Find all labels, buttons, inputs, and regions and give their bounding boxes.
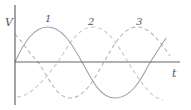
curve-3-label: 3 — [136, 16, 142, 27]
curve-2-label: 2 — [87, 16, 94, 27]
y-axis-label: V — [5, 16, 14, 29]
x-axis-label: t — [172, 67, 177, 80]
three-phase-voltage-diagram: V t 1 2 3 — [0, 0, 191, 110]
curve-1-label: 1 — [45, 13, 51, 24]
